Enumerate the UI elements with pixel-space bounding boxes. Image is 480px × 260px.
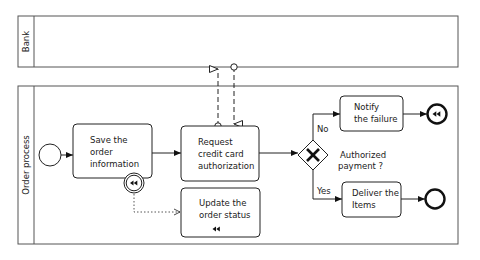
svg-text:authorization: authorization <box>198 161 254 171</box>
end-event[interactable] <box>426 190 445 209</box>
svg-text:information: information <box>90 159 139 169</box>
start-event[interactable] <box>39 144 61 166</box>
task-deliver-items[interactable]: Deliver the Items <box>342 182 401 217</box>
pool-bank[interactable]: Bank <box>18 16 458 67</box>
gateway-label-line-1: Authorized <box>340 150 386 160</box>
task-save-line-3: information <box>90 159 139 169</box>
gateway-label-line-2: payment ? <box>338 161 383 171</box>
task-notify-line-1: Notify <box>354 102 379 112</box>
task-request-authorization[interactable]: Request credit card authorization <box>181 126 259 181</box>
task-update-order-status[interactable]: Update the order status <box>181 188 260 237</box>
svg-text:credit card: credit card <box>198 149 244 159</box>
svg-text:Deliver the: Deliver the <box>352 188 399 198</box>
end-compensation-event[interactable] <box>428 105 447 124</box>
task-request-line-3: authorization <box>198 161 254 171</box>
task-notify-failure[interactable]: Notify the failure <box>340 96 403 131</box>
task-save-line-1: Save the <box>90 135 128 145</box>
task-save-order[interactable]: Save the order information <box>73 124 152 178</box>
task-save-line-2: order <box>90 147 113 157</box>
svg-text:order: order <box>90 147 113 157</box>
bpmn-diagram: Bank Order process Save the order inform… <box>0 0 480 260</box>
svg-text:order status: order status <box>199 210 251 220</box>
task-deliver-line-1: Deliver the <box>352 188 399 198</box>
task-update-line-1: Update the <box>199 198 246 208</box>
svg-text:Authorized: Authorized <box>340 150 386 160</box>
svg-text:Items: Items <box>352 200 376 210</box>
boundary-compensation-event[interactable] <box>124 173 144 193</box>
pool-order-label: Order process <box>21 135 31 195</box>
svg-text:Save the: Save the <box>90 135 128 145</box>
task-deliver-line-2: Items <box>352 200 376 210</box>
pool-bank-label: Bank <box>21 31 31 52</box>
branch-label-no: No <box>317 124 329 134</box>
svg-text:Request: Request <box>198 137 233 147</box>
svg-text:Update the: Update the <box>199 198 246 208</box>
branch-label-yes: Yes <box>316 186 331 196</box>
svg-text:Notify: Notify <box>354 102 379 112</box>
svg-text:the failure: the failure <box>354 114 398 124</box>
svg-text:payment ?: payment ? <box>338 161 383 171</box>
task-request-line-1: Request <box>198 137 233 147</box>
task-request-line-2: credit card <box>198 149 244 159</box>
task-update-line-2: order status <box>199 210 251 220</box>
task-notify-line-2: the failure <box>354 114 398 124</box>
